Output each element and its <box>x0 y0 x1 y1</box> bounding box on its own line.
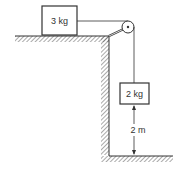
height-label: 2 m <box>130 125 145 135</box>
height-arrow: 2 m <box>128 105 148 155</box>
floor <box>101 156 173 162</box>
block-2kg: 2 kg <box>120 83 149 104</box>
table-surface <box>15 36 110 42</box>
pulley-diagram: 3 kg 2 kg 2 m <box>0 0 183 177</box>
wall <box>101 36 109 156</box>
pulley-icon <box>122 21 134 33</box>
block-3kg: 3 kg <box>42 6 77 35</box>
block-3kg-label: 3 kg <box>51 16 68 26</box>
block-2kg-label: 2 kg <box>126 89 143 99</box>
